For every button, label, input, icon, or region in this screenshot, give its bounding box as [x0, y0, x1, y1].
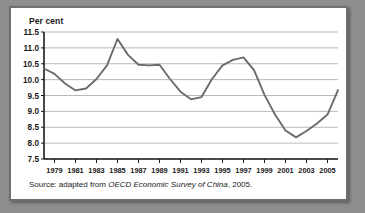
x-axis-tick-label: 1999 [256, 166, 272, 175]
y-axis-tick-label: 9.0 [28, 107, 40, 116]
x-axis-tick-label: 1991 [172, 166, 188, 175]
data-series-line [44, 39, 338, 137]
x-axis-tick-label: 2001 [277, 166, 293, 175]
y-axis-tick-label: 7.5 [28, 155, 40, 164]
x-axis-tick-label: 1997 [235, 166, 251, 175]
x-axis-tick-label: 1981 [67, 166, 83, 175]
x-axis-tick-label: 1979 [46, 166, 62, 175]
y-axis-tick-label: 8.5 [28, 123, 40, 132]
x-axis-tick-label: 2003 [298, 166, 314, 175]
line-chart: 11.511.010.510.09.59.08.58.07.5197919811… [11, 8, 350, 203]
source-publication: OECD Economic Survey of China [108, 180, 228, 189]
source-suffix: , 2005. [228, 180, 252, 189]
x-axis-tick-label: 2005 [319, 166, 335, 175]
x-axis-tick-label: 1987 [130, 166, 146, 175]
x-axis-tick-label: 1985 [109, 166, 125, 175]
x-axis-tick-label: 1993 [193, 166, 209, 175]
y-axis-tick-label: 11.5 [24, 28, 40, 37]
source-prefix: Source: adapted from [29, 180, 108, 189]
figure-panel: Per cent 11.511.010.510.09.59.08.58.07.5… [9, 6, 348, 201]
y-axis-tick-label: 10.5 [23, 60, 39, 69]
y-axis-tick-label: 8.0 [28, 139, 40, 148]
x-axis-tick-label: 1989 [151, 166, 167, 175]
y-axis-tick-label: 11.0 [24, 44, 40, 53]
y-axis-tick-label: 10.0 [23, 76, 39, 85]
plot-area: 11.511.010.510.09.59.08.58.07.5197919811… [11, 8, 346, 199]
y-axis-tick-label: 9.5 [28, 92, 40, 101]
x-axis-tick-label: 1983 [88, 166, 104, 175]
source-note: Source: adapted from OECD Economic Surve… [29, 180, 252, 189]
x-axis-tick-label: 1995 [214, 166, 230, 175]
